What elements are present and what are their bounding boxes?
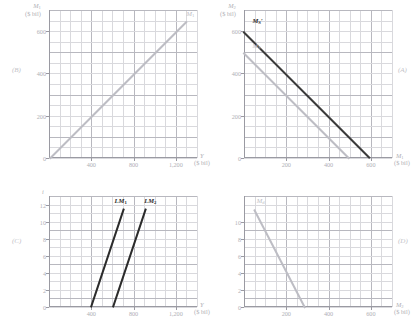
y-tick [46, 222, 49, 223]
gridline-horizontal [49, 95, 197, 96]
y-tick [241, 222, 244, 223]
gridline-horizontal [244, 63, 392, 64]
y-tick [241, 273, 244, 274]
y-tick [46, 73, 49, 74]
gridline-horizontal [244, 222, 392, 223]
x-tick-label: 400 [324, 310, 333, 317]
panel-b-x-axis-title: Y ($ bil) [200, 152, 204, 159]
gridline-horizontal [49, 21, 197, 22]
panel-d-y-axis [244, 196, 245, 307]
y-tick [46, 290, 49, 291]
gridline-horizontal [244, 273, 392, 274]
curve-label: MS′ [252, 17, 262, 25]
panel-a-y-axis-title: M2 ($ bil) [220, 2, 236, 17]
curve-label: M1 [186, 10, 194, 18]
panel-a-x-axis-title: M1 ($ bil) [396, 152, 404, 160]
panel-b-y-axis-title: M1 ($ bil) [25, 2, 41, 17]
x-tick-label: 400 [87, 310, 96, 317]
panel-d: (D) M2 ($ bil) 2004006000246810Md [210, 175, 420, 333]
y-tick-label: 4 [226, 269, 241, 276]
x-tick-label: 400 [87, 161, 96, 168]
curve-label: Md [257, 197, 265, 205]
gridline-horizontal [49, 63, 197, 64]
gridline-horizontal [244, 84, 392, 85]
y-tick-label: 10 [226, 218, 241, 225]
panel-d-x-axis [244, 306, 392, 307]
curve-label: LM1 [115, 197, 127, 205]
gridline-horizontal [49, 147, 197, 148]
gridline-horizontal [49, 42, 197, 43]
panel-c-letter: (C) [12, 237, 21, 245]
curve-label: LM2 [144, 197, 156, 205]
y-tick [241, 239, 244, 240]
y-tick [46, 307, 49, 308]
y-tick-label: 200 [226, 112, 241, 119]
panel-b-x-var: Y [200, 152, 204, 159]
x-tick-label: 800 [129, 161, 138, 168]
y-tick-label: 6 [226, 252, 241, 259]
x-tick-label: 400 [324, 161, 333, 168]
gridline-horizontal [244, 10, 392, 11]
gridline-horizontal [244, 239, 392, 240]
panel-a-grid [244, 10, 392, 158]
gridline-horizontal [244, 205, 392, 206]
gridline-horizontal [49, 256, 197, 257]
y-tick [46, 256, 49, 257]
y-tick-label: 0 [226, 155, 241, 162]
panel-d-x-axis-title: M2 ($ bil) [396, 301, 404, 309]
gridline-horizontal [244, 290, 392, 291]
gridline-horizontal [49, 222, 197, 223]
panel-c-y-axis [49, 196, 50, 307]
gridline-horizontal [244, 213, 392, 214]
x-tick-label: 200 [282, 310, 291, 317]
gridline-vertical [197, 10, 198, 158]
x-tick-label: 600 [366, 161, 375, 168]
gridline-horizontal [244, 281, 392, 282]
gridline-horizontal [244, 247, 392, 248]
panel-a: (A) M2 ($ bil) M1 ($ bil) 20040060002004… [210, 0, 420, 175]
x-tick-label: 1,200 [169, 310, 183, 317]
panel-b-x-units: ($ bil) [194, 159, 210, 166]
gridline-horizontal [49, 239, 197, 240]
y-tick-label: 6 [31, 252, 46, 259]
y-tick-label: 0 [226, 304, 241, 311]
gridline-horizontal [244, 147, 392, 148]
y-tick-label: 12 [31, 201, 46, 208]
panel-c-x-var: Y [200, 301, 204, 308]
y-tick-label: 0 [31, 155, 46, 162]
panel-c-x-axis [49, 306, 197, 307]
panel-b-letter: (B) [12, 66, 21, 74]
gridline-horizontal [49, 307, 197, 308]
curve-label: MS [252, 42, 260, 50]
panel-a-plot-area [244, 10, 392, 158]
y-tick [46, 239, 49, 240]
y-tick [46, 31, 49, 32]
x-tick-label: 200 [282, 161, 291, 168]
x-tick-label: 1,200 [169, 161, 183, 168]
panel-b-y-axis [49, 10, 50, 158]
y-tick [46, 273, 49, 274]
y-tick-label: 200 [31, 112, 46, 119]
y-tick-label: 8 [226, 235, 241, 242]
panel-b: (B) M1 ($ bil) Y ($ bil) 4008001,2000200… [0, 0, 210, 175]
panel-a-x-units: ($ bil) [394, 159, 410, 166]
gridline-horizontal [49, 105, 197, 106]
panel-c: (C) i Y ($ bil) 4008001,200024681012LM1L… [0, 175, 210, 333]
panel-c-x-units: ($ bil) [194, 308, 210, 315]
y-tick-label: 2 [226, 286, 241, 293]
y-tick-label: 600 [226, 28, 241, 35]
gridline-horizontal [49, 158, 197, 159]
panel-c-x-axis-title: Y ($ bil) [200, 301, 204, 308]
y-tick [241, 73, 244, 74]
panel-a-letter: (A) [398, 66, 407, 74]
four-panel-figure: (B) M1 ($ bil) Y ($ bil) 4008001,2000200… [0, 0, 420, 333]
gridline-horizontal [244, 196, 392, 197]
gridline-horizontal [244, 298, 392, 299]
panel-b-plot-area [49, 10, 197, 158]
y-tick [46, 116, 49, 117]
gridline-horizontal [244, 42, 392, 43]
panel-d-x-units: ($ bil) [394, 308, 410, 315]
y-tick-label: 400 [226, 70, 241, 77]
gridline-horizontal [49, 281, 197, 282]
panel-d-grid [244, 196, 392, 307]
